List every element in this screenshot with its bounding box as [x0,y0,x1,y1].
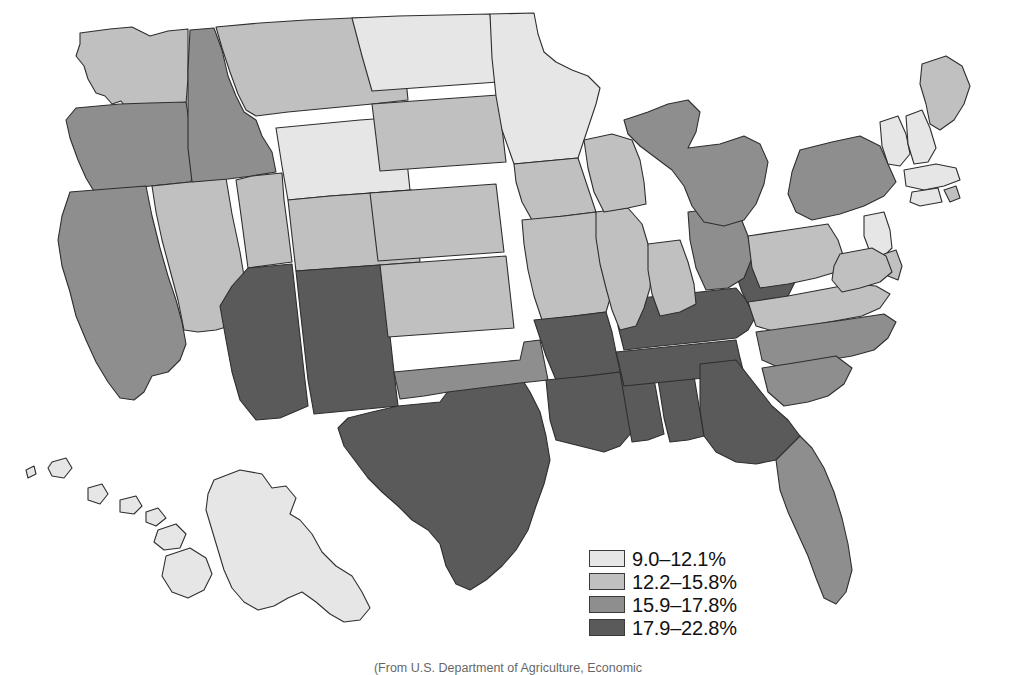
state-fl: Florida — 15.9–17.8% [776,436,852,604]
state-ks: Kansas — 12.2–15.8% [380,256,514,337]
legend-item-1: 12.2–15.8% [589,571,737,592]
legend-label-0: 9.0–12.1% [632,549,726,569]
figure-caption: (From U.S. Department of Agriculture, Ec… [0,661,1016,675]
state-sd: South Dakota — 12.2–15.8% [372,95,506,171]
legend-item-3: 17.9–22.8% [589,617,737,638]
legend-swatch-3 [589,619,625,636]
state-ct: Connecticut — 9.0–12.1% [910,188,942,206]
state-ne: Nebraska — 12.2–15.8% [370,184,504,261]
legend-label-2: 15.9–17.8% [632,595,737,615]
state-me: Maine — 12.2–15.8% [920,56,970,130]
legend-item-2: 15.9–17.8% [589,594,737,615]
state-az: Arizona — 17.9–22.8% [220,264,308,420]
state-ia: Iowa — 12.2–15.8% [514,158,596,220]
state-ny: New York — 15.9–17.8% [788,136,896,220]
state-md: Maryland — 12.2–15.8% [832,248,892,292]
state-mn: Minnesota — 9.0–12.1% [490,13,600,164]
state-nd: North Dakota — 9.0–12.1% [352,14,498,91]
legend-swatch-1 [589,573,625,590]
state-or: Oregon — 15.9–17.8% [66,102,196,193]
state-mi: Michigan — 15.9–17.8% [624,100,768,226]
state-wa: Washington — 12.2–15.8% [76,27,188,110]
legend-label-3: 17.9–22.8% [632,618,737,638]
state-ma: Massachusetts — 9.0–12.1% [904,164,960,190]
legend-label-1: 12.2–15.8% [632,572,737,592]
state-ar: Arkansas — 17.9–22.8% [534,312,620,380]
state-pa: Pennsylvania — 12.2–15.8% [748,224,844,288]
state-ri: Rhode Island — 12.2–15.8% [944,186,960,202]
states-layer: Alaska — 9.0–12.1%Hawaii — 9.0–12.1%Wash… [26,13,970,622]
state-ak: Alaska — 9.0–12.1% [206,470,370,622]
state-hi: Hawaii — 9.0–12.1% [26,458,212,598]
legend-item-0: 9.0–12.1% [589,548,737,569]
map-legend: 9.0–12.1% 12.2–15.8% 15.9–17.8% 17.9–22.… [589,548,737,638]
state-ut: Utah — 12.2–15.8% [236,173,292,268]
state-la: Louisiana — 17.9–22.8% [546,372,632,452]
state-wi: Wisconsin — 12.2–15.8% [584,134,646,212]
legend-swatch-0 [589,550,625,567]
legend-swatch-2 [589,596,625,613]
